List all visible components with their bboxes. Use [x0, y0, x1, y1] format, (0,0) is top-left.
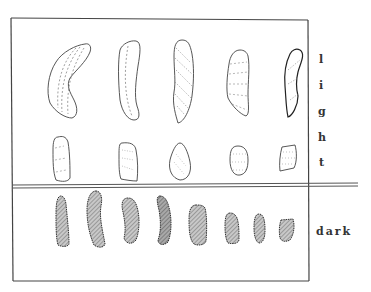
specimen-light-10 — [280, 145, 297, 171]
specimen-light-8 — [169, 143, 190, 180]
group-divider — [12, 183, 358, 188]
specimen-light-7 — [119, 143, 138, 181]
light-label-letter-4: h — [318, 132, 326, 143]
specimen-dark-1 — [56, 196, 69, 246]
specimen-light-5 — [285, 49, 303, 117]
dark-label: dark — [316, 226, 352, 237]
specimen-dark-8 — [279, 219, 294, 241]
dark-specimens-row — [56, 191, 294, 247]
light-label-letter-2: i — [319, 80, 323, 91]
specimen-light-4 — [227, 50, 249, 116]
light-label-letter-1: l — [319, 54, 323, 65]
light-specimens-row-1 — [48, 40, 303, 123]
specimen-light-1 — [48, 44, 91, 118]
light-label-letter-5: t — [319, 157, 324, 168]
specimen-light-2 — [119, 41, 141, 120]
specimen-dark-4 — [157, 196, 171, 244]
specimen-dark-5 — [189, 205, 207, 245]
specimen-dark-3 — [122, 198, 139, 243]
specimen-dark-2 — [87, 191, 105, 247]
specimen-light-6 — [53, 137, 70, 182]
light-specimens-row-2 — [53, 137, 296, 182]
specimen-diagram — [0, 0, 371, 292]
specimen-light-3 — [173, 40, 193, 123]
specimen-light-9 — [230, 146, 248, 175]
specimen-dark-7 — [254, 214, 265, 243]
light-label-letter-3: g — [318, 106, 326, 117]
specimen-dark-6 — [225, 213, 239, 244]
